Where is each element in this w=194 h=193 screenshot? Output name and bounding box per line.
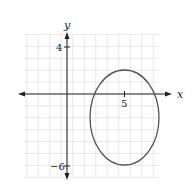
y-axis-bottom-arrow-icon [65, 173, 70, 180]
y-axis-top-arrow-icon [65, 32, 70, 39]
y-axis-label: y [63, 19, 71, 32]
x-axis-right-arrow-icon [165, 92, 172, 97]
x-tick-label-5: 5 [121, 98, 127, 109]
x-axis-label: x [177, 88, 184, 101]
y-tick-label-4: 4 [56, 42, 62, 53]
y-tick-label-neg6: −6 [50, 161, 65, 172]
coordinate-plane: y x 4 −6 5 [0, 0, 194, 193]
x-axis-left-arrow-icon [18, 92, 25, 97]
